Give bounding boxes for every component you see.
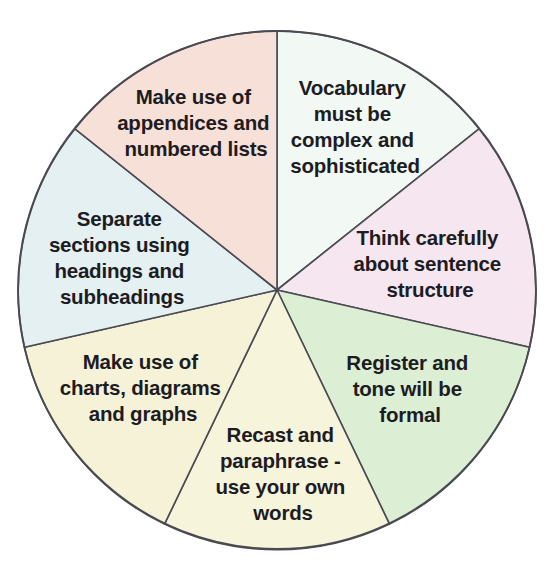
label-line: appendices and — [117, 111, 269, 134]
pie-slice-appendices-lists-label: Make use of appendices and numbered list… — [117, 85, 275, 160]
label-line: paraphrase - — [220, 449, 341, 472]
label-line: Think carefully — [356, 226, 498, 249]
label-line: charts, diagrams — [60, 376, 221, 399]
label-line: must be — [314, 102, 391, 125]
label-line: sophisticated — [290, 154, 420, 177]
label-line: structure — [386, 278, 473, 301]
label-line: use your own — [215, 475, 345, 498]
label-line: Make use of — [83, 350, 199, 373]
label-line: Separate — [77, 207, 162, 230]
diagram-canvas: Vocabulary must be complex and sophistic… — [0, 0, 554, 571]
label-line: words — [252, 501, 312, 524]
label-line: Register and — [346, 351, 468, 374]
label-line: subheadings — [60, 285, 184, 308]
label-line: tone will be — [353, 377, 462, 400]
label-line: Vocabulary — [299, 76, 407, 99]
svg-text:Make use of appendices: Make use of appendices and numbered list… — [117, 85, 275, 160]
label-line: numbered lists — [124, 137, 267, 160]
label-line: complex and — [291, 128, 414, 151]
label-line: formal — [379, 403, 440, 426]
label-line: about sentence — [353, 252, 501, 275]
label-line: headings and — [54, 259, 184, 282]
label-line: sections using — [49, 233, 190, 256]
pie-wheel-diagram: Vocabulary must be complex and sophistic… — [0, 0, 554, 571]
label-line: and graphs — [89, 402, 198, 425]
label-line: Recast and — [227, 423, 334, 446]
label-line: Make use of — [136, 85, 252, 108]
